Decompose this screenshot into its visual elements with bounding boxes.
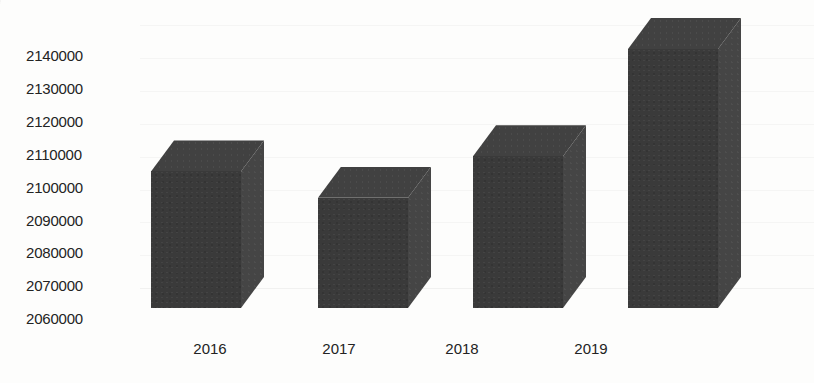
y-axis-tick-label: 2130000 [26,80,134,97]
bar-side-face [563,125,586,308]
y-axis-tick-label: 2110000 [26,146,134,163]
y-axis-tick-label: 2070000 [26,277,134,294]
y-axis-tick-label: 2140000 [26,47,134,64]
bar-2018 [473,125,586,308]
bar-front-face [473,156,563,308]
y-axis-tick-label: 2080000 [26,244,134,261]
bar-front-face [151,171,241,308]
bar-side-face [718,18,741,308]
y-axis-tick-label: 2060000 [26,310,134,327]
x-axis-tick-label: 2016 [193,340,226,357]
y-axis-tick-label: 2100000 [26,179,134,196]
bar-2019 [628,18,741,308]
bar-front-face [628,49,718,308]
x-axis-tick-label: 2019 [574,340,607,357]
x-axis-tick-label: 2017 [322,340,355,357]
plot-area: 2140000213000021200002110000210000020900… [0,0,814,383]
bar-front-face [318,198,408,308]
y-axis-tick-label: 2120000 [26,113,134,130]
bar-chart: 2140000213000021200002110000210000020900… [0,0,814,383]
bar-2017 [318,167,431,308]
y-axis-tick-label: 2090000 [26,212,134,229]
x-axis-tick-label: 2018 [445,340,478,357]
bar-2016 [151,140,264,308]
